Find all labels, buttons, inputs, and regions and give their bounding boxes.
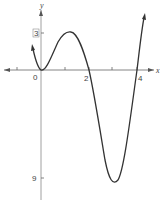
function-curve [33,18,144,182]
curve-right-arrow-icon [142,13,146,20]
y-tick-label-3: 3 [34,29,39,38]
x-axis-right-arrow-icon [148,68,154,72]
y-tick-label-9: 9 [32,174,37,183]
x-tick-label-2: 2 [84,74,89,83]
y-axis: y [39,1,44,200]
origin-label: 0 [33,73,38,82]
x-tick-label-4: 4 [138,74,143,83]
y-axis-arrow-icon [39,10,43,16]
curve-left-arrow-icon [31,44,35,51]
function-graph: x y 0 2 4 3 9 [0,0,160,202]
x-axis-label: x [155,66,160,75]
y-axis-label: y [39,1,44,10]
x-axis-left-arrow-icon [4,68,10,72]
